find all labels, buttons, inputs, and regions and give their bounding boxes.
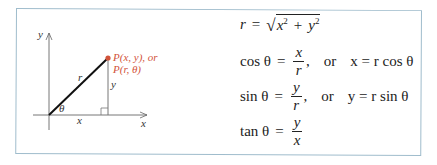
hypotenuse-r	[49, 58, 108, 115]
point-label-polar: P(r, θ)	[112, 63, 141, 76]
x-axis-label: x	[140, 117, 146, 129]
y-axis-label: y	[37, 28, 43, 40]
radicand: x2+y2	[276, 14, 321, 34]
radical-sign: √	[266, 17, 275, 34]
hypotenuse-label: r	[78, 71, 83, 83]
denominator: x	[294, 132, 301, 148]
exponent: 2	[315, 16, 320, 26]
equation-tan: tan θ = y x	[240, 115, 304, 148]
comma: ,	[306, 53, 310, 70]
exponent: 2	[283, 16, 288, 26]
eq-equals: =	[252, 16, 260, 33]
comma: ,	[304, 88, 308, 105]
eq-sin-alt: y = r sin θ	[348, 88, 409, 105]
equation-sin: sin θ = y r , or y = r sin θ	[240, 80, 409, 113]
eq-equals: =	[275, 123, 283, 140]
fraction-x-over-r: x r	[293, 45, 304, 78]
fraction-y-over-r: y r	[291, 80, 302, 113]
denominator: r	[296, 62, 302, 78]
numerator: y	[291, 80, 302, 97]
point-p	[105, 55, 110, 60]
or-text: or	[321, 88, 334, 105]
angle-theta-label: θ	[59, 102, 65, 114]
square-root: √ x2+y2	[266, 14, 320, 34]
plus-sign: +	[294, 17, 302, 33]
right-angle-marker	[101, 108, 108, 115]
numerator: x	[293, 45, 304, 62]
eq-r-lhs: r	[240, 16, 246, 33]
eq-tan-fn: tan θ	[240, 123, 269, 140]
or-text: or	[324, 53, 337, 70]
denominator: r	[293, 97, 299, 113]
numerator: y	[292, 115, 303, 132]
horizontal-leg-label: x	[76, 114, 82, 126]
eq-cos-fn: cos θ	[240, 53, 271, 70]
eq-sin-fn: sin θ	[240, 88, 268, 105]
equation-r-definition: r = √ x2+y2	[240, 14, 320, 34]
eq-equals: =	[274, 88, 282, 105]
radicand-y: y	[308, 17, 315, 33]
vertical-leg-label: y	[110, 78, 116, 90]
fraction-y-over-x: y x	[292, 115, 303, 148]
eq-cos-alt: x = r cos θ	[350, 53, 413, 70]
eq-equals: =	[277, 53, 285, 70]
equation-cos: cos θ = x r , or x = r cos θ	[240, 45, 413, 78]
